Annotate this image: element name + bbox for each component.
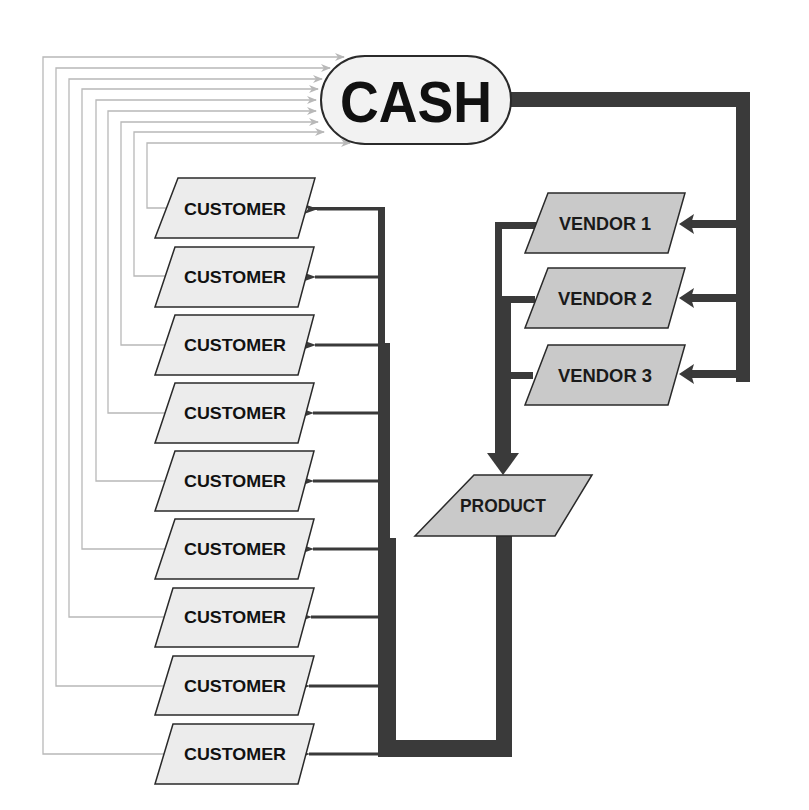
vendor-label: VENDOR 1 xyxy=(559,214,651,234)
customer-label: CUSTOMER xyxy=(184,540,286,559)
customer-label: CUSTOMER xyxy=(184,745,286,764)
customer-label: CUSTOMER xyxy=(184,404,286,423)
product-node[interactable]: PRODUCT xyxy=(415,475,592,536)
vendor-node-1[interactable]: VENDOR 1 xyxy=(525,193,685,253)
customer-list: CUSTOMER CUSTOMER CUSTOMER CUSTOMER CUST… xyxy=(155,178,315,784)
customer-label: CUSTOMER xyxy=(184,268,286,287)
customer-label: CUSTOMER xyxy=(184,608,286,627)
customer-node-8[interactable]: CUSTOMER xyxy=(155,656,314,715)
customer-node-5[interactable]: CUSTOMER xyxy=(155,451,314,511)
vendor-label: VENDOR 2 xyxy=(558,289,652,309)
arrow-to-product xyxy=(487,453,519,475)
customer-node-4[interactable]: CUSTOMER xyxy=(155,383,314,443)
customer-node-6[interactable]: CUSTOMER xyxy=(155,519,314,579)
customer-label: CUSTOMER xyxy=(184,472,286,491)
customer-node-3[interactable]: CUSTOMER xyxy=(155,315,314,375)
cash-flow-diagram: CASH VENDOR 1 VENDOR 2 VENDOR 3 PRODUCT … xyxy=(0,0,809,810)
vendor-label: VENDOR 3 xyxy=(558,366,652,386)
vendor-node-3[interactable]: VENDOR 3 xyxy=(525,345,685,405)
customer-label: CUSTOMER xyxy=(184,336,286,355)
vendor-node-2[interactable]: VENDOR 2 xyxy=(525,268,685,328)
customer-node-9[interactable]: CUSTOMER xyxy=(155,724,314,784)
product-label: PRODUCT xyxy=(460,496,546,516)
cash-node[interactable]: CASH xyxy=(321,56,511,144)
customer-arrows xyxy=(309,209,380,754)
customer-label: CUSTOMER xyxy=(184,677,286,696)
customer-node-1[interactable]: CUSTOMER xyxy=(155,178,315,238)
cash-label: CASH xyxy=(340,69,492,134)
customer-node-7[interactable]: CUSTOMER xyxy=(155,588,314,647)
vendor-to-product-flow xyxy=(487,222,540,475)
customer-node-2[interactable]: CUSTOMER xyxy=(155,247,314,307)
customer-label: CUSTOMER xyxy=(184,200,286,219)
